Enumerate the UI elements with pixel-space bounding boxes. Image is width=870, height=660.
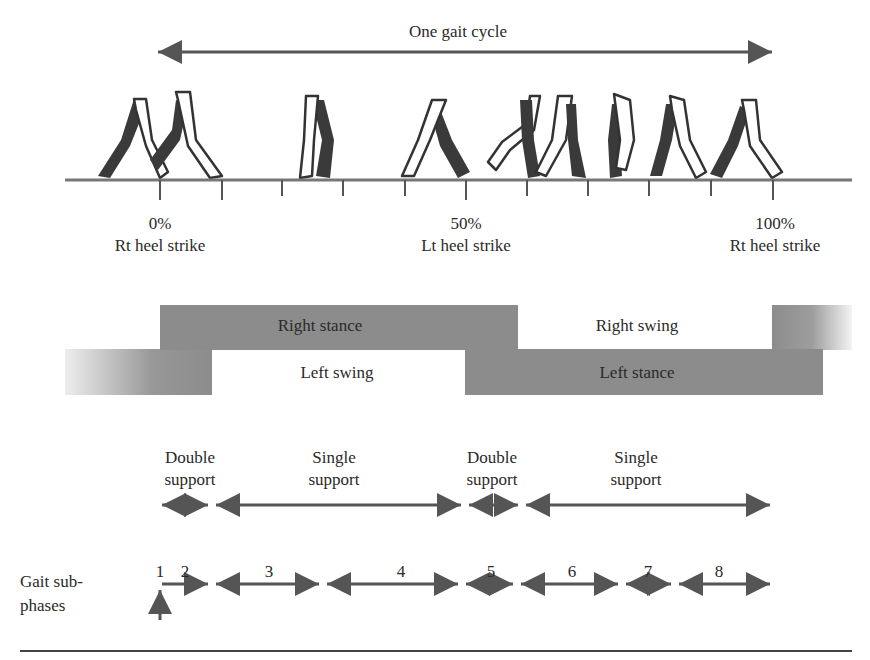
gait-cycle-diagram: One gait cycle 0% Rt heel strike 50% Lt … <box>0 0 870 660</box>
right-swing-label: Right swing <box>596 316 679 336</box>
support-label-4-line2: support <box>611 470 662 490</box>
left-stance-label: Left stance <box>599 363 674 383</box>
stance-swing-bars <box>65 305 852 395</box>
right-stance-label: Right stance <box>278 316 363 336</box>
ground-line <box>65 180 852 200</box>
diagram-graphics <box>0 0 870 660</box>
event-percent-100: 100% <box>755 214 795 234</box>
subphase-number-8: 8 <box>715 562 724 582</box>
event-percent-50: 50% <box>450 214 481 234</box>
subphase-heading-line2: phases <box>20 596 65 616</box>
event-percent-0: 0% <box>149 214 172 234</box>
support-label-3-line1: Double <box>467 448 517 468</box>
subphase-number-5: 5 <box>487 562 496 582</box>
subphase-heading-line1: Gait sub- <box>20 572 83 592</box>
subphase-arrows <box>160 584 770 620</box>
subphase-number-6: 6 <box>568 562 577 582</box>
subphase-number-3: 3 <box>265 562 274 582</box>
subphase-number-7: 7 <box>644 562 653 582</box>
support-label-2-line2: support <box>309 470 360 490</box>
event-label-50: Lt heel strike <box>421 236 511 256</box>
support-label-4-line1: Single <box>614 448 657 468</box>
support-label-3-line2: support <box>467 470 518 490</box>
subphase-number-1: 1 <box>156 562 165 582</box>
support-label-2-line1: Single <box>312 448 355 468</box>
support-label-1-line2: support <box>165 470 216 490</box>
event-label-0: Rt heel strike <box>115 236 206 256</box>
left-swing-label: Left swing <box>300 363 373 383</box>
subphase-number-4: 4 <box>397 562 406 582</box>
event-label-100: Rt heel strike <box>730 236 821 256</box>
walking-figures <box>98 92 782 178</box>
gait-cycle-title: One gait cycle <box>409 22 507 42</box>
support-label-1-line1: Double <box>165 448 215 468</box>
subphase-number-2: 2 <box>181 562 190 582</box>
